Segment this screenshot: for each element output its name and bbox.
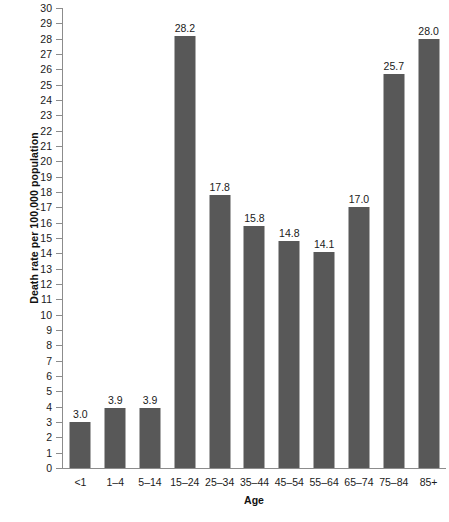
bar-group: 17.065–74 [342,8,377,468]
y-tick-label: 24 [18,95,52,105]
y-tick [56,330,62,331]
y-tick-label: 25 [18,80,52,90]
y-tick [56,437,62,438]
y-tick-label: 21 [18,141,52,151]
bar [105,408,126,468]
y-tick [56,422,62,423]
y-tick-label: 16 [18,218,52,228]
bar-group: 17.825–34 [202,8,237,468]
y-tick [56,468,62,469]
y-tick [56,39,62,40]
bar-group: 14.155–64 [307,8,342,468]
bar-group: 25.775–84 [376,8,411,468]
y-tick [56,299,62,300]
y-tick [56,361,62,362]
y-tick-label: 28 [18,34,52,44]
y-tick-label: 5 [18,386,52,396]
bar-value-label: 17.0 [349,194,369,205]
bar [174,36,195,468]
y-tick-label: 9 [18,325,52,335]
x-tick-label: <1 [74,476,86,488]
y-tick [56,161,62,162]
bar-value-label: 15.8 [244,213,264,224]
y-tick [56,192,62,193]
x-tick-label: 75–84 [379,476,408,488]
y-tick-label: 29 [18,18,52,28]
y-tick [56,453,62,454]
bar-value-label: 3.9 [143,395,158,406]
bar [244,226,265,468]
y-tick [56,345,62,346]
y-tick-label: 14 [18,248,52,258]
figure-bar-chart: Death rate per 100,000 population 012345… [0,0,449,522]
figure-caption [8,513,449,522]
x-tick-label: 85+ [420,476,438,488]
x-tick-label: 15–24 [170,476,199,488]
y-tick [56,69,62,70]
y-tick-label: 2 [18,432,52,442]
y-tick-label: 15 [18,233,52,243]
x-tick-label: 45–54 [275,476,304,488]
y-tick [56,177,62,178]
y-tick [56,223,62,224]
y-tick [56,115,62,116]
bar [314,252,335,468]
y-tick [56,391,62,392]
y-tick [56,146,62,147]
bar-group: 28.085+ [411,8,446,468]
bar [348,207,369,468]
bar-group: 3.95–14 [133,8,168,468]
y-tick-label: 18 [18,187,52,197]
y-tick [56,131,62,132]
y-tick [56,238,62,239]
bar-group: 3.91–4 [98,8,133,468]
bar-value-label: 14.1 [314,239,334,250]
y-tick [56,407,62,408]
y-tick-label: 30 [18,3,52,13]
y-tick-label: 10 [18,310,52,320]
y-tick-label: 12 [18,279,52,289]
bar-group: 15.835–44 [237,8,272,468]
x-tick-label: 1–4 [106,476,124,488]
y-tick-label: 8 [18,340,52,350]
y-tick-label: 3 [18,417,52,427]
y-tick [56,315,62,316]
y-tick-label: 11 [18,294,52,304]
bar-value-label: 14.8 [279,228,299,239]
y-tick [56,376,62,377]
bar-series: 3.0<13.91–43.95–1428.215–2417.825–3415.8… [63,8,446,468]
bar-group: 28.215–24 [167,8,202,468]
y-tick-label: 19 [18,172,52,182]
bar [70,422,91,468]
x-axis-line [62,468,446,469]
x-axis-title: Age [62,494,446,506]
bar [383,74,404,468]
bar-value-label: 28.2 [175,23,195,34]
bar-value-label: 3.9 [108,395,123,406]
y-tick-label: 7 [18,356,52,366]
y-tick [56,100,62,101]
y-tick [56,269,62,270]
x-tick-label: 55–64 [310,476,339,488]
bar-value-label: 25.7 [384,61,404,72]
bar [279,241,300,468]
bar-group: 3.0<1 [63,8,98,468]
y-tick-label: 6 [18,371,52,381]
bar-value-label: 3.0 [73,409,88,420]
y-tick-label: 0 [18,463,52,473]
x-tick-label: 35–44 [240,476,269,488]
x-tick-label: 25–34 [205,476,234,488]
y-tick [56,85,62,86]
y-tick [56,8,62,9]
x-tick-label: 65–74 [344,476,373,488]
x-tick-label: 5–14 [138,476,161,488]
y-tick-label: 23 [18,110,52,120]
y-tick-label: 20 [18,156,52,166]
y-tick [56,207,62,208]
y-tick [56,253,62,254]
y-tick-label: 4 [18,402,52,412]
y-tick-label: 17 [18,202,52,212]
y-tick-label: 1 [18,448,52,458]
y-tick [56,23,62,24]
bar [140,408,161,468]
